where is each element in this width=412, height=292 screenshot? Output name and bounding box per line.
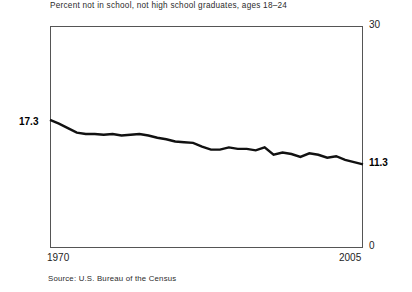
y-axis-min-label: 0 [369, 240, 375, 251]
line-series [50, 26, 363, 248]
series-polyline [50, 120, 363, 164]
y-axis-max-label: 30 [369, 19, 380, 30]
start-value-annotation: 17.3 [19, 116, 38, 127]
end-value-annotation: 11.3 [369, 157, 388, 168]
chart-figure: Percent not in school, not high school g… [0, 0, 412, 292]
source-note: Source: U.S. Bureau of the Census [48, 274, 176, 283]
x-axis-end-label: 2005 [339, 252, 361, 263]
x-axis-start-label: 1970 [47, 252, 69, 263]
plot-area [50, 26, 363, 248]
chart-title: Percent not in school, not high school g… [50, 1, 287, 10]
